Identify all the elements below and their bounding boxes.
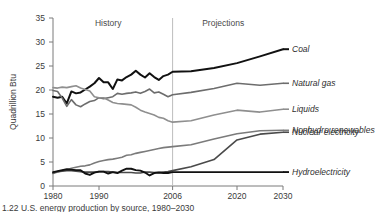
series-line-liquids <box>53 86 283 122</box>
y-tick-label: 15 <box>36 109 46 119</box>
x-axis-tick-labels: 19801990200620202030 <box>44 191 293 200</box>
x-tick-label: 2020 <box>228 191 247 200</box>
series-line-coal <box>53 49 283 103</box>
y-tick-label: 35 <box>36 13 46 23</box>
x-tick-label: 1980 <box>44 191 63 200</box>
y-axis-tick-labels: 05101520253035 <box>36 13 46 191</box>
y-axis-ticks <box>49 18 53 186</box>
y-tick-label: 0 <box>40 181 45 191</box>
series-lines-group <box>53 49 283 175</box>
y-tick-label: 25 <box>36 61 46 71</box>
series-line-nuclear-electricity <box>53 132 283 173</box>
series-label-hydroelectricity: Hydroelectricity <box>292 167 351 177</box>
series-label-nuclear-electricity: Nuclear electricity <box>292 127 360 137</box>
y-tick-label: 5 <box>40 157 45 167</box>
x-tick-label: 2030 <box>274 191 293 200</box>
y-tick-label: 20 <box>36 85 46 95</box>
history-label: History <box>95 18 122 28</box>
series-label-coal: Coal <box>292 44 311 54</box>
energy-production-line-chart: 05101520253035 19801990200620202030 Quad… <box>0 0 381 200</box>
series-line-natural-gas <box>53 83 283 107</box>
y-tick-label: 30 <box>36 37 46 47</box>
series-label-natural-gas: Natural gas <box>292 78 336 88</box>
figure-container: 05101520253035 19801990200620202030 Quad… <box>0 0 381 212</box>
x-tick-label: 2006 <box>163 191 182 200</box>
x-axis-ticks <box>53 186 283 190</box>
series-label-liquids: Liquids <box>292 104 320 114</box>
figure-caption: 1.22 U.S. energy production by source, 1… <box>2 203 381 212</box>
y-tick-label: 10 <box>36 133 46 143</box>
y-axis-title: Quadrillion Btu <box>8 74 18 130</box>
x-tick-label: 1990 <box>90 191 109 200</box>
projections-label: Projections <box>202 18 244 28</box>
series-labels-group: CoalNatural gasLiquidsNonhydro renewable… <box>283 44 375 177</box>
